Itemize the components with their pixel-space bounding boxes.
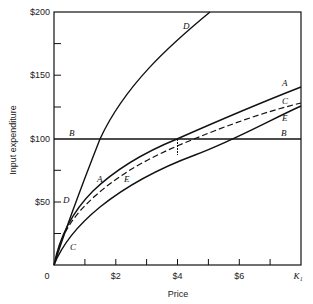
y-tick-200: $200 [30,7,50,17]
label-c-right: C [282,96,289,106]
x-tick-0: 0 [44,271,49,281]
label-a-left: A [96,174,103,184]
y-tick-100: $100 [30,134,50,144]
label-e-left: E [123,174,130,184]
label-c-left: C [70,242,77,252]
label-e-right: E [281,113,288,123]
label-a-right: A [281,78,288,88]
x-tick-2: $2 [111,271,121,281]
x-axis-ticks [85,259,270,265]
label-d-top: D [182,21,190,31]
label-b-left: B [69,128,75,138]
x-tick-4: $4 [172,271,182,281]
label-b-right: B [281,128,287,138]
chart: $200 $150 $100 $50 0 $2 $4 $6 K₁ Price I… [0,0,313,304]
label-d-bottom: D [62,195,70,205]
y-tick-50: $50 [35,197,50,207]
curve-e-dashed [56,103,301,258]
x-tick-6: $6 [234,271,244,281]
x-tick-k1: K₁ [292,271,302,281]
x-axis-title: Price [168,289,189,299]
y-axis-title: Input expenditure [8,105,18,175]
y-tick-150: $150 [30,70,50,80]
curve-c [54,106,301,265]
